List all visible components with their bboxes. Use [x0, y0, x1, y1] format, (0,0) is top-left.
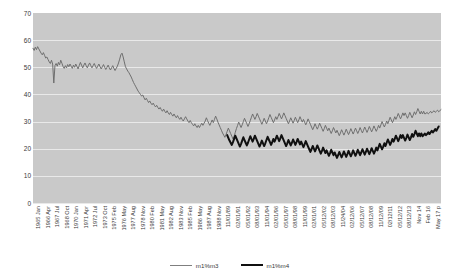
x-tick-label: 05/01/97	[283, 206, 289, 228]
x-tick-label: 1967 Jul	[54, 206, 60, 227]
x-tick-label: 1987 Aug	[206, 206, 212, 230]
x-tick-label: 1977 Aug	[130, 206, 136, 230]
x-tick-label: 1965 Jan	[35, 206, 41, 229]
x-tick-label: 1986 May	[197, 206, 203, 231]
x-tick-label: Nov 14	[416, 206, 422, 224]
x-tick-label: 08/12/13	[406, 206, 412, 228]
legend-entry-m1m3[interactable]: m1%m3	[170, 262, 219, 269]
x-tick-label: 11/01/94	[264, 206, 270, 227]
series-line-m1m3	[33, 47, 441, 139]
x-tick-label: 1982 Aug	[168, 206, 174, 230]
x-tick-label: 1968 Oct	[64, 206, 70, 229]
x-tick-label: 1980 Feb	[149, 206, 155, 230]
x-tick-label: 08/01/93	[254, 206, 260, 228]
series-layer	[33, 13, 441, 203]
y-tick-label: 50	[5, 64, 31, 71]
x-tick-label: 05/12/12	[397, 206, 403, 228]
x-tick-label: 1976 May	[121, 206, 127, 231]
y-tick-label: 0	[5, 200, 31, 207]
x-tick-label: 08/12/08	[368, 206, 374, 228]
legend-label: m1%m4	[267, 262, 290, 269]
x-tick-label: 05/12/07	[359, 206, 365, 228]
x-tick-label: 1983 Nov	[178, 206, 184, 230]
x-tick-label: 05/01/92	[245, 206, 251, 228]
x-tick-label: May 17 p	[435, 206, 441, 229]
x-tick-label: 1981 May	[159, 206, 165, 231]
legend-entry-m1m4[interactable]: m1%m4	[241, 262, 290, 269]
line-chart: 706050403020100 1965 Jan1966 Apr1967 Jul…	[0, 0, 459, 278]
x-tick-label: 02/12/06	[349, 206, 355, 228]
x-tick-label: 08/01/98	[292, 206, 298, 228]
legend-label: m1%m3	[196, 262, 219, 269]
y-tick-label: 70	[5, 10, 31, 17]
legend-swatch-icon	[170, 265, 192, 266]
x-tick-label: 02/12/11	[387, 206, 393, 227]
x-tick-label: 1975 Feb	[111, 206, 117, 230]
y-axis: 706050403020100	[0, 0, 31, 210]
series-line-m1m4	[227, 126, 439, 157]
x-tick-label: 11/01/99	[302, 206, 308, 227]
x-tick-label: 11/24/04	[340, 206, 346, 227]
x-tick-label: 1988 Nov	[216, 206, 222, 230]
x-tick-label: 1966 Apr	[45, 206, 51, 228]
x-tick-label: 08/12/03	[330, 206, 336, 228]
y-tick-label: 20	[5, 145, 31, 152]
y-tick-label: 10	[5, 172, 31, 179]
x-tick-label: 1970 Jan	[73, 206, 79, 229]
x-tick-label: 05/12/02	[321, 206, 327, 228]
y-tick-label: 30	[5, 118, 31, 125]
x-tick-label: 1972 Jul	[92, 206, 98, 227]
y-tick-label: 40	[5, 91, 31, 98]
x-tick-label: 1978 Nov	[140, 206, 146, 230]
x-tick-label: 11/01/89	[225, 206, 231, 227]
x-tick-label: 11/12/09	[378, 206, 384, 227]
x-tick-label: 1971 Apr	[83, 206, 89, 228]
x-axis: 1965 Jan1966 Apr1967 Jul1968 Oct1970 Jan…	[33, 204, 441, 256]
x-tick-label: 1985 Feb	[187, 206, 193, 230]
x-tick-label: 1973 Oct	[102, 206, 108, 229]
chart-legend: m1%m3 m1%m4	[0, 258, 459, 272]
x-tick-label: Feb 16	[425, 206, 431, 223]
x-tick-label: 02/01/01	[311, 206, 317, 228]
x-tick-label: 02/01/96	[273, 206, 279, 228]
y-tick-label: 60	[5, 37, 31, 44]
legend-swatch-icon	[241, 264, 263, 266]
x-tick-label: 02/01/91	[235, 206, 241, 228]
